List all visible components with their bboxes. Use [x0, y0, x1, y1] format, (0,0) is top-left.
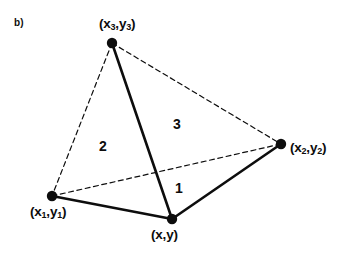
region-number-2: 2: [99, 139, 107, 153]
vertex-dot-x1y1: [47, 191, 57, 201]
vertices-group: [47, 38, 286, 224]
edge-x3y3-to-x2y2: [112, 43, 281, 144]
edge-x3y3-to-xy: [112, 43, 172, 219]
panel-letter-label: b): [14, 18, 24, 28]
edge-x1y1-to-xy: [52, 196, 172, 219]
vertex-dot-x3y3: [107, 38, 117, 48]
vertex-dot-x2y2: [276, 139, 286, 149]
region-number-1: 1: [175, 181, 183, 195]
edge-x3y3-to-x1y1: [52, 43, 112, 196]
edge-xy-to-x2y2: [172, 144, 281, 219]
region-number-3: 3: [173, 117, 181, 131]
vertex-label-x2y2: (x2,y2): [290, 141, 326, 155]
edges-group: [52, 43, 281, 219]
vertex-label-x3y3: (x3,y3): [99, 17, 135, 31]
edge-x1y1-to-x2y2: [52, 144, 281, 196]
vertex-label-xy: (x,y): [151, 228, 178, 242]
figure-panel-b: b) (x3,y3) (x2,y2) (x1,y1) (x,y) 1 2 3: [0, 0, 347, 260]
vertex-dot-xy: [167, 214, 177, 224]
vertex-label-x1y1: (x1,y1): [30, 205, 66, 219]
